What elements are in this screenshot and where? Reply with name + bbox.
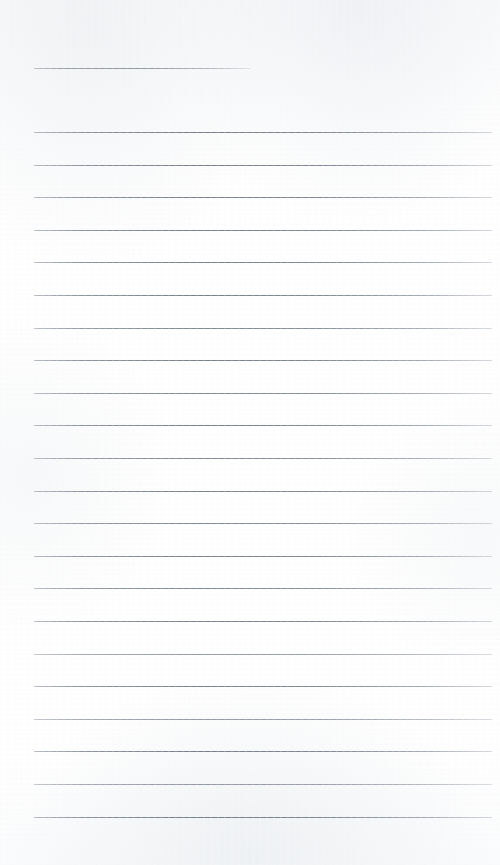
handwriting-text-layer xyxy=(0,0,500,865)
scanned-lined-page xyxy=(0,0,500,865)
